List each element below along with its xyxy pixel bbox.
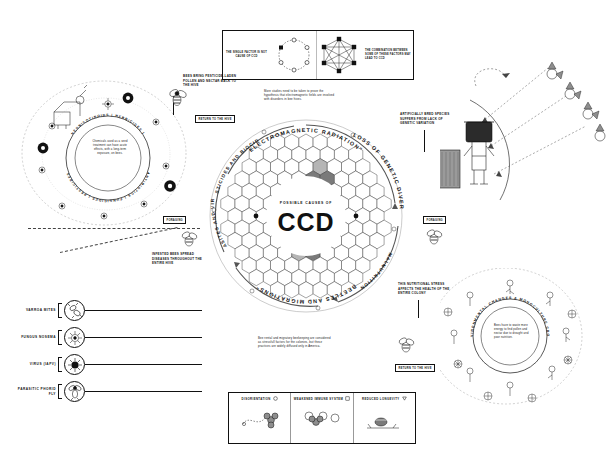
top-panel-left: THE SINGLE FACTOR IS NOT CAUSE OF CCD xyxy=(223,31,317,79)
legend-label-text: DISORIENTATION xyxy=(242,397,271,401)
legend-label: DISORIENTATION xyxy=(242,396,278,402)
parasite-row[interactable]: PARASITIC PHORID FLY xyxy=(12,381,202,402)
bee-left-outer xyxy=(168,88,192,114)
bracket-marker xyxy=(58,303,62,318)
note-nutritional-stress: THIS NUTRITIONAL STRESS AFFECTS THE HEAL… xyxy=(398,282,450,296)
fungus-icon xyxy=(64,327,85,348)
bee-left-spore xyxy=(180,230,202,254)
badge-return-hive-top[interactable]: RETURN TO THE HIVE xyxy=(195,115,235,123)
legend-cell[interactable]: WEAKENED IMMUNE SYSTEM xyxy=(291,393,353,443)
isolated-nodes-icon xyxy=(273,34,315,76)
legend-marker-circle-icon xyxy=(273,396,278,402)
bracket-marker xyxy=(58,330,62,345)
single-factor-caption: THE SINGLE FACTOR IS NOT CAUSE OF CCD xyxy=(225,51,269,59)
legend-label: REDUCED LONGEVITY xyxy=(362,396,407,402)
parasite-label: FUNGUS NOSEMA xyxy=(12,335,56,340)
disoriented-bee-icon xyxy=(239,406,281,436)
connector-rule xyxy=(85,310,202,311)
bracket-marker xyxy=(58,384,62,399)
ccd-acronym: CCD xyxy=(277,208,334,236)
combination-caption: THE COMBINATION BETWEEN SOME OF THESE FA… xyxy=(365,49,413,60)
legend-marker-triangle-icon xyxy=(402,396,407,402)
chem-body-text: Chemicals used as a seed treatment can h… xyxy=(90,140,130,156)
ccd-subtitle: POSSIBLE CAUSES OF xyxy=(280,201,332,205)
legend-label: WEAKENED IMMUNE SYSTEM xyxy=(294,396,351,402)
connector-rule xyxy=(85,337,202,338)
legend-marker-square-icon xyxy=(345,396,350,402)
weak-bee-icon xyxy=(301,406,343,436)
parasite-label: VARROA MITES xyxy=(12,308,56,313)
legend-cell[interactable]: REDUCED LONGEVITY xyxy=(354,393,415,443)
beekeeper-scene xyxy=(440,60,610,220)
top-panel-right: THE COMBINATION BETWEEN SOME OF THESE FA… xyxy=(317,31,413,79)
note-migratory: Bee rental and migratory beekeeping are … xyxy=(258,336,332,348)
connected-network-icon xyxy=(317,33,361,77)
parasite-label: PARASITIC PHORID FLY xyxy=(12,387,56,397)
ccd-hub: POSSIBLE CAUSES OF CCD ELECTROMAGNETIC R… xyxy=(198,108,414,324)
note-pesticide-return: BEES BRING PESTICIDE-LADEN POLLEN AND NE… xyxy=(183,74,241,88)
connector-right-vert-2 xyxy=(418,300,419,318)
parasite-list: VARROA MITESFUNGUS NOSEMAVIRUS (IAPV)PAR… xyxy=(12,300,202,408)
mite-icon xyxy=(64,300,85,321)
parasite-label: VIRUS (IAPV) xyxy=(12,362,56,367)
legend-label-text: REDUCED LONGEVITY xyxy=(362,397,400,401)
connector-rule xyxy=(85,364,202,365)
top-panel: THE SINGLE FACTOR IS NOT CAUSE OF CCD xyxy=(222,30,414,80)
note-infested: INFESTED BEES SPREAD DISEASES THROUGHOUT… xyxy=(152,252,210,266)
dead-bee-icon xyxy=(363,406,405,436)
parasite-row[interactable]: VARROA MITES xyxy=(12,300,202,321)
dash-bottom-left xyxy=(60,227,178,253)
fly-icon xyxy=(64,381,85,402)
bee-right-lower xyxy=(396,336,418,360)
bee-right-forage xyxy=(424,228,446,252)
bracket-marker xyxy=(58,357,62,372)
note-genetic-variation: ARTIFICIALLY BRED SPECIES SUFFERS FROM L… xyxy=(400,112,452,126)
infographic-canvas: THE SINGLE FACTOR IS NOT CAUSE OF CCD xyxy=(0,0,613,456)
badge-foraging-left[interactable]: FORAGING xyxy=(163,216,186,224)
note-electromagnetic: More studies need to be taken to prove t… xyxy=(264,89,336,101)
virus-icon xyxy=(64,354,85,375)
badge-return-hive-bottom[interactable]: RETURN TO THE HIVE xyxy=(395,364,435,372)
parasite-row[interactable]: VIRUS (IAPV) xyxy=(12,354,202,375)
legend-label-text: WEAKENED IMMUNE SYSTEM xyxy=(294,397,344,401)
legend-cell[interactable]: DISORIENTATION xyxy=(229,393,291,443)
environment-circle: ENVIRONMENTAL CHANGES & MONOCULTURE CROP… xyxy=(440,268,600,408)
connector-right-vert xyxy=(424,130,425,152)
env-body-text: Bees have to waste more energy to find p… xyxy=(494,324,530,340)
parasite-row[interactable]: FUNGUS NOSEMA xyxy=(12,327,202,348)
connector-rule xyxy=(85,391,202,392)
legend-panel: DISORIENTATIONWEAKENED IMMUNE SYSTEMREDU… xyxy=(228,392,416,444)
badge-foraging-right[interactable]: FORAGING xyxy=(423,216,446,224)
